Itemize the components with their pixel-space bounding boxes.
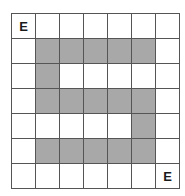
cell-endpoint-label: E — [163, 170, 172, 183]
grid-cell-r1-c4[interactable] — [84, 14, 107, 38]
grid-cell-r6-c5[interactable] — [108, 139, 131, 163]
maze-grid: EE — [11, 13, 180, 189]
grid-cell-r1-c6[interactable] — [132, 14, 155, 38]
grid-cell-r6-c6[interactable] — [132, 139, 155, 163]
grid-cell-r3-c4[interactable] — [84, 64, 107, 88]
cell-endpoint-label: E — [19, 20, 28, 33]
grid-cell-r5-c6[interactable] — [132, 114, 155, 138]
grid-cell-r7-c2[interactable] — [36, 164, 59, 188]
grid-cell-r6-c3[interactable] — [60, 139, 83, 163]
grid-cell-r3-c1[interactable] — [12, 64, 35, 88]
grid-cell-r5-c1[interactable] — [12, 114, 35, 138]
grid-cell-r3-c7[interactable] — [156, 64, 179, 88]
grid-cell-r5-c2[interactable] — [36, 114, 59, 138]
grid-cell-r2-c2[interactable] — [36, 39, 59, 63]
grid-cell-r6-c7[interactable] — [156, 139, 179, 163]
grid-cell-r4-c7[interactable] — [156, 89, 179, 113]
grid-cell-r5-c4[interactable] — [84, 114, 107, 138]
grid-cell-r4-c6[interactable] — [132, 89, 155, 113]
grid-cell-r7-c3[interactable] — [60, 164, 83, 188]
grid-cell-r2-c1[interactable] — [12, 39, 35, 63]
grid-cell-r7-c5[interactable] — [108, 164, 131, 188]
grid-cell-r7-c1[interactable] — [12, 164, 35, 188]
grid-cell-r1-c1[interactable]: E — [12, 14, 35, 38]
grid-cell-r2-c4[interactable] — [84, 39, 107, 63]
grid-cell-r4-c3[interactable] — [60, 89, 83, 113]
grid-cell-r6-c1[interactable] — [12, 139, 35, 163]
grid-cell-r3-c6[interactable] — [132, 64, 155, 88]
grid-cell-r4-c1[interactable] — [12, 89, 35, 113]
grid-cell-r5-c5[interactable] — [108, 114, 131, 138]
grid-cell-r1-c5[interactable] — [108, 14, 131, 38]
grid-cell-r6-c2[interactable] — [36, 139, 59, 163]
grid-cell-r7-c4[interactable] — [84, 164, 107, 188]
grid-cell-r3-c2[interactable] — [36, 64, 59, 88]
grid-cell-r5-c7[interactable] — [156, 114, 179, 138]
grid-cell-r2-c5[interactable] — [108, 39, 131, 63]
grid-cell-r3-c3[interactable] — [60, 64, 83, 88]
grid-cell-r1-c3[interactable] — [60, 14, 83, 38]
grid-cell-r5-c3[interactable] — [60, 114, 83, 138]
grid-cell-r3-c5[interactable] — [108, 64, 131, 88]
grid-cell-r7-c6[interactable] — [132, 164, 155, 188]
grid-cell-r4-c5[interactable] — [108, 89, 131, 113]
grid-cell-r2-c3[interactable] — [60, 39, 83, 63]
grid-cell-r1-c7[interactable] — [156, 14, 179, 38]
grid-puzzle-figure: EE — [0, 0, 185, 196]
grid-cell-r6-c4[interactable] — [84, 139, 107, 163]
grid-cell-r2-c6[interactable] — [132, 39, 155, 63]
grid-cell-r2-c7[interactable] — [156, 39, 179, 63]
grid-cell-r4-c4[interactable] — [84, 89, 107, 113]
grid-cell-r1-c2[interactable] — [36, 14, 59, 38]
grid-cell-r4-c2[interactable] — [36, 89, 59, 113]
grid-cell-r7-c7[interactable]: E — [156, 164, 179, 188]
